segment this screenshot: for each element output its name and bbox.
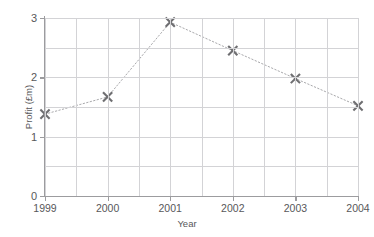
y-axis-tick <box>40 18 45 19</box>
y-axis-tick-label: 2 <box>31 72 37 83</box>
y-axis-tick <box>40 137 45 138</box>
y-axis-line <box>44 16 45 196</box>
y-axis-tick <box>40 77 45 78</box>
gridline-vertical <box>76 18 77 196</box>
x-axis-tick <box>233 196 234 201</box>
x-axis-tick-label: 2003 <box>284 203 307 214</box>
gridline-vertical <box>358 18 359 196</box>
gridline-vertical <box>139 18 140 196</box>
y-axis-tick-label: 1 <box>31 131 37 142</box>
gridline-vertical <box>264 18 265 196</box>
profit-by-year-chart: 0123199920002001200220032004 Profit (£m)… <box>0 0 374 237</box>
gridline-vertical <box>295 18 296 196</box>
y-axis-tick-label: 3 <box>31 13 37 24</box>
x-axis-tick-label: 2000 <box>96 203 119 214</box>
plot-area: 0123199920002001200220032004 <box>45 18 358 196</box>
gridline-vertical <box>108 18 109 196</box>
x-axis-tick-label: 1999 <box>33 203 56 214</box>
gridline-vertical <box>233 18 234 196</box>
y-axis-tick-label: 0 <box>31 191 37 202</box>
gridline-vertical <box>170 18 171 196</box>
x-axis-tick-label: 2004 <box>346 203 369 214</box>
gridline-vertical <box>327 18 328 196</box>
x-axis-tick <box>358 196 359 201</box>
x-axis-line <box>44 196 359 197</box>
y-axis-title: Profit (£m) <box>23 85 34 129</box>
x-axis-tick <box>108 196 109 201</box>
x-axis-tick <box>45 196 46 201</box>
x-axis-tick-label: 2002 <box>221 203 244 214</box>
chart-title-cropped <box>0 0 374 2</box>
x-axis-tick <box>170 196 171 201</box>
x-axis-tick-label: 2001 <box>159 203 182 214</box>
x-axis-title: Year <box>0 218 374 229</box>
x-axis-tick <box>295 196 296 201</box>
gridline-vertical <box>202 18 203 196</box>
